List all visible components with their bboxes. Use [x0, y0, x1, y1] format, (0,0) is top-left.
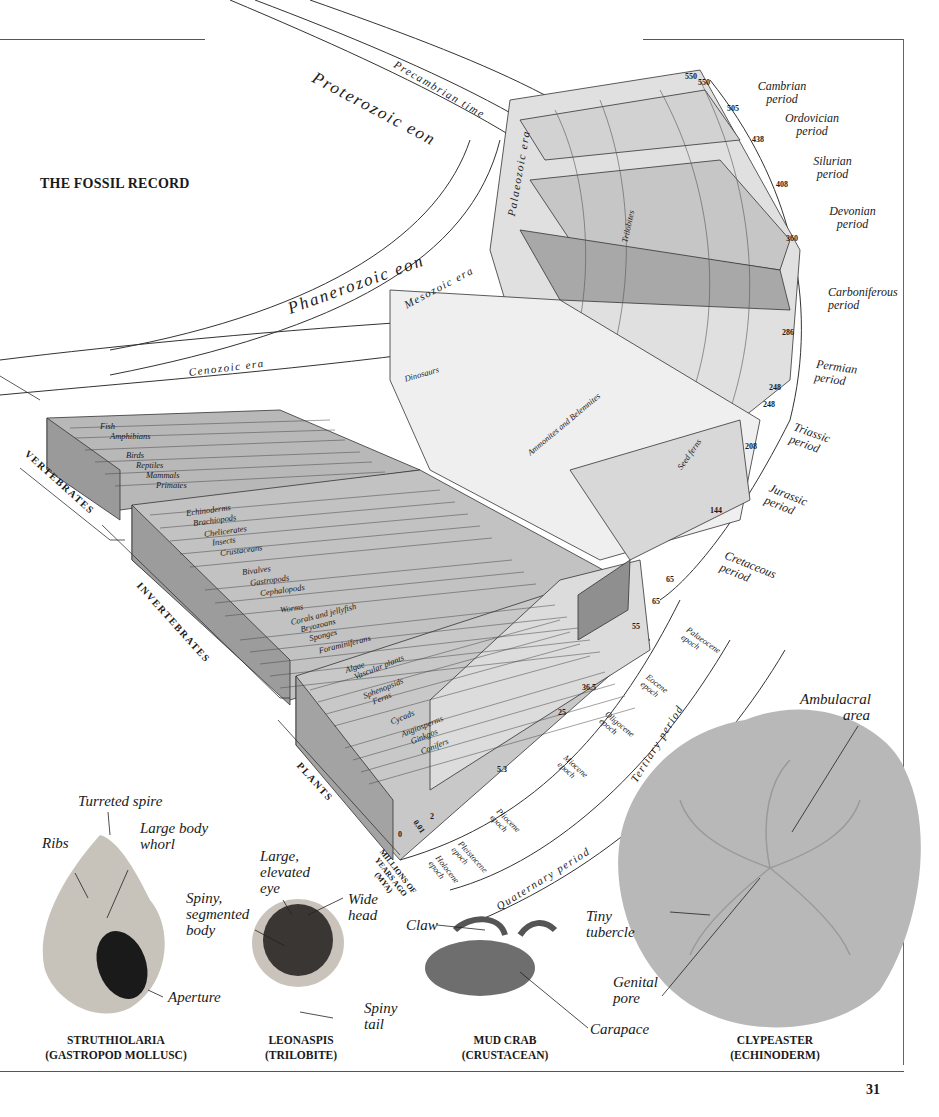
- fossil-name-struthiolaria: STRUTHIOLARIA (GASTROPOD MOLLUSC): [36, 1033, 196, 1063]
- label-wide-head: Wide head: [348, 891, 388, 923]
- row-fish: Fish: [100, 422, 115, 431]
- timescale-diagram: [0, 0, 939, 1117]
- tick-248a: 248: [769, 383, 781, 392]
- label-large-body-whorl: Large body whorl: [140, 820, 210, 852]
- label-ambulacral-area: Ambulacral area: [800, 691, 870, 723]
- tick-360: 360: [786, 234, 798, 243]
- tick-2: 2: [430, 812, 434, 821]
- tick-550a: 550: [685, 72, 697, 81]
- fossil-name-mud-crab: MUD CRAB (CRUSTACEAN): [450, 1033, 560, 1063]
- fossil-name-leonaspis: LEONASPIS (TRILOBITE): [246, 1033, 356, 1063]
- row-mammals: Mammals: [146, 471, 180, 480]
- label-spiny-tail: Spiny tail: [364, 1000, 404, 1032]
- period-silurian: Silurian period: [800, 155, 865, 181]
- period-devonian: Devonian period: [820, 205, 885, 231]
- tick-36-5: 36.5: [582, 683, 596, 692]
- row-primates: Primates: [156, 481, 187, 490]
- label-genital-pore: Genital pore: [613, 974, 668, 1006]
- tick-144: 144: [710, 506, 722, 515]
- label-spiny-segmented-body: Spiny, segmented body: [186, 890, 256, 938]
- tick-438: 438: [752, 135, 764, 144]
- tick-55: 55: [632, 622, 640, 631]
- tick-550b: 550: [698, 78, 710, 87]
- label-turreted-spire: Turreted spire: [78, 793, 162, 809]
- label-tiny-tubercle: Tiny tubercle: [586, 908, 644, 940]
- period-ordovician: Ordovician period: [772, 112, 852, 138]
- tick-208: 208: [745, 442, 757, 451]
- tick-65a: 65: [666, 575, 674, 584]
- tick-408: 408: [776, 180, 788, 189]
- tick-286: 286: [782, 328, 794, 337]
- tick-25: 25: [558, 708, 566, 717]
- label-claw: Claw: [406, 917, 438, 933]
- label-ribs: Ribs: [42, 835, 69, 851]
- tick-505: 505: [727, 104, 739, 113]
- label-aperture: Aperture: [168, 989, 221, 1005]
- struthiolaria-photo: [43, 835, 165, 1014]
- label-large-elevated-eye: Large, elevated eye: [260, 848, 330, 896]
- row-reptiles: Reptiles: [136, 461, 163, 470]
- fossil-name-clypeaster: CLYPEASTER (ECHINODERM): [710, 1033, 840, 1063]
- row-birds: Birds: [126, 451, 144, 460]
- tick-248b: 248: [763, 400, 775, 409]
- label-carapace: Carapace: [590, 1021, 649, 1037]
- period-cambrian: Cambrian period: [742, 80, 822, 106]
- mud-crab-photo: [425, 940, 535, 996]
- period-carboniferous: Carboniferous period: [828, 286, 903, 312]
- tick-5-3: 5.3: [497, 765, 507, 774]
- row-amphibians: Amphibians: [110, 432, 151, 441]
- tick-65b: 65: [652, 597, 660, 606]
- tick-0: 0: [398, 830, 402, 839]
